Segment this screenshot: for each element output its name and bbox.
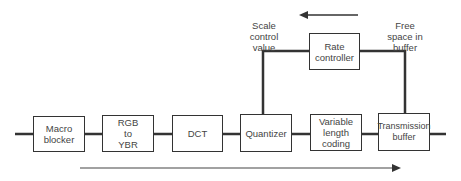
quantizer-block: Quantizer: [240, 114, 292, 152]
arrowhead-left-icon: [299, 11, 308, 19]
rate-controller-block: Rate controller: [309, 33, 360, 70]
variable-length-coding-block: Variable length coding: [310, 114, 362, 151]
scale-control-value-label: Scale control value: [244, 20, 284, 53]
transmission-buffer-block: Transmission buffer: [378, 113, 430, 151]
arrowhead-right-icon: [392, 164, 401, 172]
macro-blocker-block: Macro blocker: [33, 116, 85, 152]
dct-block: DCT: [172, 115, 223, 152]
rgb-to-ybr-block: RGB to YBR: [102, 115, 154, 152]
free-space-in-buffer-label: Free space in buffer: [375, 20, 435, 53]
